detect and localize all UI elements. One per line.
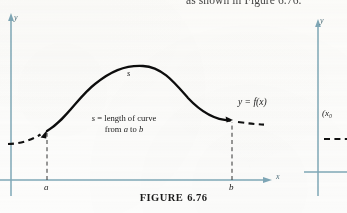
figure-page: as shown in Figure 6.76. y x a b s y = f… [0, 0, 347, 213]
figure-caption-number: 6.76 [187, 192, 207, 203]
tick-label-b: b [229, 182, 234, 192]
note-symbol-s: s [92, 113, 95, 123]
figure-caption: FIGURE6.76 [0, 192, 347, 203]
curve-dashed-right-extension [238, 122, 264, 125]
adjacent-figure-partial [296, 0, 347, 200]
arc-length-note: s = length of curve from a to b [62, 113, 186, 135]
curve-point-a-arrowhead [41, 130, 47, 139]
curve-dashed-left-extension [8, 135, 41, 145]
note-endpoint-a: a [124, 124, 128, 134]
note-from-word: from [105, 124, 122, 134]
x-axis-label: x [276, 172, 280, 181]
function-label: y = f(x) [238, 97, 267, 108]
arc-length-label-s: s [127, 69, 130, 79]
y-axis-label: y [14, 13, 18, 22]
x-axis-arrowhead [263, 177, 272, 183]
figure-caption-word: FIGURE [140, 192, 184, 203]
note-line-1: = length of curve [97, 113, 156, 123]
note-endpoint-b: b [139, 124, 143, 134]
adjacent-point-label: (x₀ [322, 108, 332, 118]
adjacent-y-axis-label: y [320, 16, 324, 25]
tick-label-a: a [44, 182, 49, 192]
note-to-word: to [130, 124, 137, 134]
